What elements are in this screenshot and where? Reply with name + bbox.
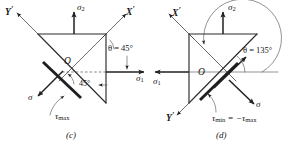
inner-angle-arc-c — [68, 74, 74, 84]
stress-element-figure: Y′ X′ σ2 σ1 O θ = 45° 45° σ τmax (c) — [0, 0, 301, 151]
panel-c-y-prime-label: Y′ — [5, 6, 14, 17]
panel-c-tau-max-label: τmax — [55, 112, 69, 122]
tau-min-leader-d — [208, 94, 216, 112]
x-prime-axis-c — [102, 14, 126, 38]
tau-min-plane-d — [200, 63, 238, 100]
panel-c-caption: (c) — [66, 131, 76, 140]
panel-d-x-prime-label: X′ — [172, 7, 181, 18]
tau-max-plane-c — [43, 62, 81, 98]
panel-c-origin-label: O — [64, 57, 71, 67]
panel-d-drawing — [150, 0, 301, 151]
panel-c-theta-label: θ = 45° — [108, 44, 133, 53]
panel-c-sigma1-label: σ1 — [136, 74, 144, 84]
panel-c-sigma-normal-label: σ — [28, 93, 32, 102]
panel-d-sigma2-label: σ2 — [228, 3, 236, 13]
panel-c-drawing — [0, 0, 151, 151]
panel-c-inner-angle-label: 45° — [79, 80, 90, 88]
panel-c-x-prime-label: X′ — [126, 6, 135, 17]
panel-d-y-prime-label: Y′ — [166, 112, 175, 123]
y-prime-axis-c — [17, 13, 47, 43]
panel-d-sigma-normal-label: σ — [256, 100, 260, 109]
panel-d-tau-min-label: τmin = −τmax — [212, 114, 256, 124]
panel-d-caption: (d) — [216, 131, 227, 140]
panel-c-sigma2-label: σ2 — [77, 3, 85, 13]
sigma-normal-arrow-d — [229, 80, 254, 104]
panel-d-origin-label: O — [198, 68, 205, 78]
y-prime-axis-d — [177, 94, 198, 115]
panel-d-theta-label: θ = 135° — [243, 46, 272, 55]
panel-d-sigma1-label: σ1 — [153, 77, 161, 87]
sigma-normal-arrow-c — [38, 71, 63, 96]
